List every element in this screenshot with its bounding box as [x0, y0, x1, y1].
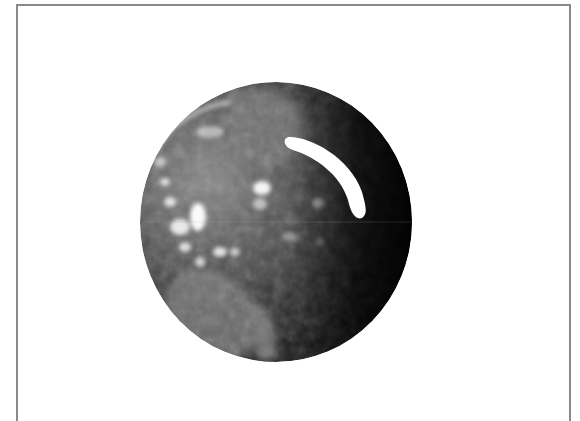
globe-graphic [140, 82, 412, 362]
earth-globe [140, 82, 412, 362]
